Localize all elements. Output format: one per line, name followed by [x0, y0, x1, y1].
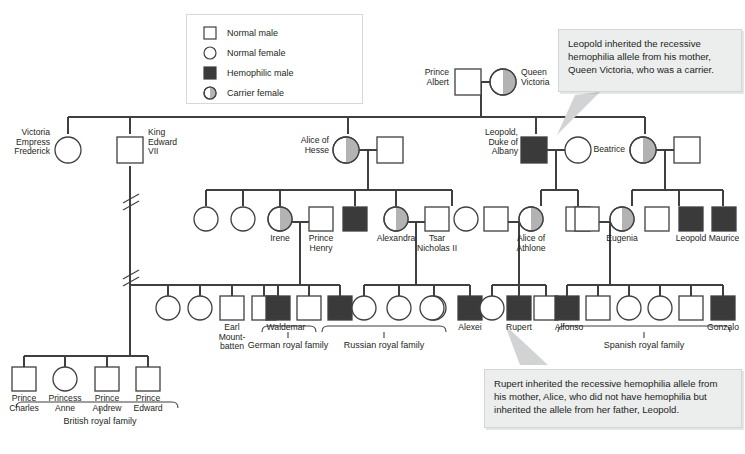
legend: Normal male Normal female Hemophilic mal… — [186, 14, 363, 104]
label-beatrice: Beatrice — [593, 145, 625, 155]
symbol-circle-open-g3c — [454, 207, 478, 231]
label-british-family: British royal family — [63, 416, 136, 426]
label-irene: Irene — [270, 234, 290, 244]
symbol-square-open-g4l — [586, 296, 610, 320]
label-prince-henry: Prince Henry — [309, 234, 333, 253]
symbol-square-filled-leopold-albany — [521, 137, 547, 163]
symbol-circle-open-g4n — [648, 296, 672, 320]
legend-label: Carrier female — [227, 88, 284, 98]
label-gonzalo: Gonzalo — [707, 323, 739, 333]
symbol-circle-open-g4g — [387, 296, 411, 320]
label-andrew: Prince Andrew — [92, 394, 121, 413]
symbol-square-open-charles — [12, 367, 36, 391]
label-alexei: Alexei — [458, 323, 481, 333]
label-alice-hesse: Alice of Hesse — [301, 136, 329, 155]
symbol-square-open-g3e — [645, 207, 669, 231]
label-alexandra: Alexandra — [377, 234, 416, 244]
label-russian-family: Russian royal family — [344, 340, 425, 350]
symbol-circle-half-alexandra — [384, 207, 408, 231]
legend-label: Normal female — [227, 48, 286, 58]
circle-half-filled-icon — [203, 86, 217, 102]
symbol-square-open-andrew — [95, 367, 119, 391]
label-maurice: Maurice — [709, 234, 740, 244]
symbol-circle-open-g4a — [156, 296, 180, 320]
symbol-circle-open-g4i — [420, 296, 444, 320]
symbol-circle-open-g4m — [617, 296, 641, 320]
square-open-icon — [203, 26, 217, 42]
symbol-square-filled-gonzalo — [711, 296, 735, 320]
symbol-circle-half-victoria — [490, 69, 516, 95]
label-spanish-family: Spanish royal family — [604, 340, 685, 350]
bracket-russian — [322, 326, 446, 332]
symbol-square-filled-alfonso — [555, 296, 579, 320]
label-albert: Prince Albert — [425, 68, 449, 87]
symbol-square-open-g4d — [297, 296, 321, 320]
symbol-circle-open-leopold-spouse — [565, 137, 591, 163]
symbol-circle-open-g3a — [194, 207, 218, 231]
symbol-square-open-edward7 — [117, 137, 143, 163]
symbol-square-filled-maurice — [712, 207, 736, 231]
label-mountbatten: Earl Mount- batten — [219, 323, 246, 352]
symbol-square-filled-alexei — [458, 296, 482, 320]
symbol-circle-half-alice-athlone — [519, 207, 543, 231]
symbol-circle-half-alice-hesse — [333, 137, 359, 163]
symbol-square-open-edward — [136, 367, 160, 391]
callout-pointer-leopold — [557, 92, 600, 135]
callout-leopold: Leopold inherited the recessive hemophil… — [558, 29, 742, 92]
symbol-circle-half-irene — [268, 207, 292, 231]
symbol-circle-open-anne — [53, 367, 77, 391]
symbol-circle-open-g4j — [480, 296, 504, 320]
symbol-square-open-albert — [455, 69, 481, 95]
legend-label: Normal male — [227, 28, 278, 38]
label-victoria: Queen Victoria — [521, 68, 550, 87]
label-eugenia: Eugenia — [606, 234, 638, 244]
label-edward: Prince Edward — [133, 394, 162, 413]
symbol-square-open-alice-spouse — [377, 137, 403, 163]
symbol-square-filled-rupert — [507, 296, 531, 320]
label-waldemar: Waldemar — [267, 323, 306, 333]
symbol-circle-half-eugenia — [610, 207, 634, 231]
label-edward7: King Edward VII — [148, 128, 177, 157]
bracket-spanish — [558, 326, 730, 332]
label-charles: Prince Charles — [9, 394, 39, 413]
symbol-square-filled-waldemar — [266, 296, 290, 320]
circle-open-icon — [203, 46, 217, 62]
symbol-square-filled-g3hem1 — [343, 207, 367, 231]
symbol-circle-open-g4f — [352, 296, 376, 320]
pedigree-chart: Normal male Normal female Hemophilic mal… — [0, 0, 745, 454]
callout-rupert: Rupert inherited the recessive hemophili… — [484, 369, 742, 428]
label-leopold2: Leopold — [676, 234, 707, 244]
symbol-square-open-g4o — [679, 296, 703, 320]
label-leopold-albany: Leopold, Duke of Albany — [485, 128, 518, 157]
label-rupert: Rupert — [506, 323, 532, 333]
symbol-square-open-mountbatten — [220, 296, 244, 320]
symbol-circle-half-beatrice — [630, 137, 656, 163]
symbol-square-open-prince-henry — [309, 207, 333, 231]
label-german-family: German royal family — [248, 340, 329, 350]
symbol-square-open-beatrice-spouse — [674, 137, 700, 163]
symbol-circle-open-vef — [55, 137, 81, 163]
generation-break-marks — [123, 194, 139, 286]
symbol-circle-open-g4b — [188, 296, 212, 320]
label-alfonso: Alfonso — [555, 323, 584, 333]
square-filled-icon — [203, 66, 217, 82]
label-alice-athlone: Alice of Athlone — [516, 234, 545, 253]
label-vef: Victoria Empress Frederick — [14, 128, 50, 157]
label-nicholas2: Tsar Nicholas II — [417, 234, 457, 253]
symbol-square-open-athlone-spouse — [484, 207, 508, 231]
label-anne: Princess Anne — [49, 394, 82, 413]
symbol-circle-open-g3b — [231, 207, 255, 231]
symbol-square-open-nicholas2 — [425, 207, 449, 231]
symbol-square-filled-g4e — [328, 296, 352, 320]
legend-label: Hemophilic male — [227, 68, 294, 78]
symbol-square-filled-leopold2 — [679, 207, 703, 231]
symbol-square-open-eugenia-spouse — [575, 207, 599, 231]
